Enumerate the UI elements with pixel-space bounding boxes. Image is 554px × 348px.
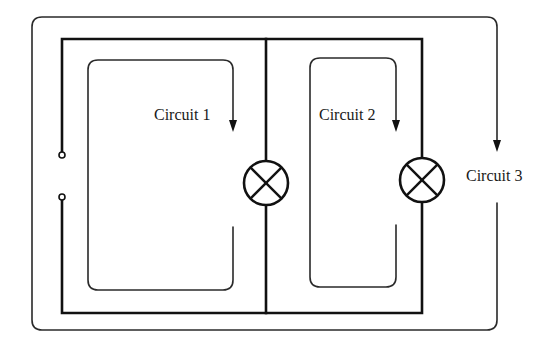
- circuit-3-label: Circuit 3: [466, 167, 522, 184]
- circuit-2-arrow-icon: [392, 120, 400, 132]
- switch: [59, 152, 65, 200]
- lamp-1-icon: [244, 161, 288, 205]
- circuit-2-path: [310, 58, 400, 287]
- main-wiring: [62, 39, 422, 313]
- switch-terminal-bottom-icon: [59, 194, 65, 200]
- circuit-1-label: Circuit 1: [154, 106, 210, 123]
- lamp-2-icon: [400, 158, 444, 202]
- circuit-1-path: [88, 60, 237, 290]
- circuit-2-label: Circuit 2: [319, 106, 375, 123]
- circuit-1-arrow-icon: [229, 120, 237, 132]
- switch-terminal-top-icon: [59, 152, 65, 158]
- circuit-diagram: Circuit 1 Circuit 2 Circuit 3: [0, 0, 554, 348]
- circuit-3-arrow-icon: [493, 140, 501, 152]
